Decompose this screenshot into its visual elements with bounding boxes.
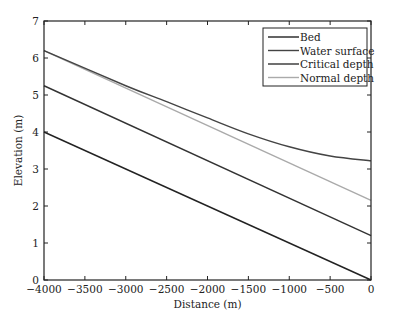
chart-svg: −4000−3500−3000−2500−2000−1500−1000−5000… xyxy=(0,0,393,322)
y-tick-label: 4 xyxy=(32,126,39,138)
x-tick-label: −3500 xyxy=(67,283,103,295)
x-tick-label: −1000 xyxy=(271,283,307,295)
x-axis-label: Distance (m) xyxy=(174,298,242,310)
y-tick-label: 3 xyxy=(32,163,39,175)
series-line-critical-depth xyxy=(44,86,371,236)
legend-label: Critical depth xyxy=(300,58,374,70)
y-tick-label: 0 xyxy=(32,274,39,286)
x-tick-label: −500 xyxy=(316,283,345,295)
legend-label: Water surface xyxy=(300,45,374,57)
y-tick-label: 7 xyxy=(32,15,39,27)
y-tick-label: 1 xyxy=(32,237,39,249)
y-tick-label: 2 xyxy=(32,200,39,212)
x-tick-label: −1500 xyxy=(231,283,267,295)
legend-label: Normal depth xyxy=(300,72,374,84)
x-tick-label: −2000 xyxy=(190,283,226,295)
x-tick-label: −3000 xyxy=(108,283,144,295)
y-axis-label: Elevation (m) xyxy=(12,115,24,187)
chart: −4000−3500−3000−2500−2000−1500−1000−5000… xyxy=(0,0,393,322)
x-tick-label: −2500 xyxy=(149,283,185,295)
y-tick-label: 6 xyxy=(32,52,39,64)
y-tick-label: 5 xyxy=(32,89,39,101)
legend-label: Bed xyxy=(300,31,321,43)
x-tick-label: 0 xyxy=(368,283,375,295)
